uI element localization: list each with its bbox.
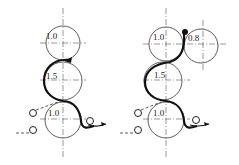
guide-roller-icon — [135, 110, 142, 117]
roll-middle-label: 1.5 — [154, 70, 166, 80]
roll-bottom-label: 1.0 — [153, 108, 165, 118]
roll-top-label: 1.0 — [46, 31, 58, 41]
roll-top-label: 1.0 — [153, 32, 165, 42]
roll-diagrams: 1.0 1.5 1.0 1.0 0.8 1.5 1.0 — [0, 0, 239, 165]
nip-marker-icon — [182, 29, 188, 35]
guide-roller-icon — [193, 117, 200, 124]
roll-bottom-label: 1.0 — [48, 108, 60, 118]
diagram-right: 1.0 0.8 1.5 1.0 — [120, 8, 228, 158]
guide-roller-icon — [135, 127, 142, 134]
guide-roller-icon — [30, 127, 37, 134]
roll-middle-label: 1.5 — [46, 71, 58, 81]
guide-roller-icon — [87, 118, 94, 125]
guide-roller-icon — [30, 110, 37, 117]
diagram-left: 1.0 1.5 1.0 — [16, 8, 106, 158]
roll-top-right-label: 0.8 — [188, 33, 200, 43]
